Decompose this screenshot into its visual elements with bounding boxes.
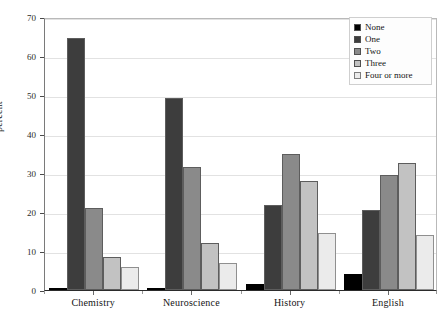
x-tick-mark-neuroscience [191,291,192,295]
legend-label: Four or more [365,71,413,80]
y-tick-label-10: 10 [16,248,36,257]
bar-english-two [380,175,398,290]
gridline-30 [45,175,436,176]
x-tick-mark-chemistry [93,291,94,295]
bar-english-none [344,274,362,290]
legend-label: Three [365,59,386,68]
bar-neuroscience-two [183,167,201,290]
legend-swatch-icon-four-or-more [354,72,361,79]
bar-neuroscience-none [147,288,165,290]
legend-item-two: Two [354,45,428,57]
x-tick-boundary-3 [339,291,340,294]
bar-english-four-or-more [416,235,434,290]
bar-chemistry-none [49,288,67,290]
y-axis-title: percent [0,101,4,132]
legend-swatch-icon-three [354,60,361,67]
y-tick-label-70: 70 [16,14,36,23]
bar-english-three [398,163,416,290]
bar-chemistry-four-or-more [121,267,139,290]
chart-legend: NoneOneTwoThreeFour or more [349,17,432,85]
bar-neuroscience-four-or-more [219,263,237,290]
legend-item-four-or-more: Four or more [354,69,428,81]
x-tick-mark-english [388,291,389,295]
bar-history-none [246,284,264,290]
bar-history-one [264,205,282,290]
legend-item-none: None [354,21,428,33]
legend-swatch-icon-two [354,48,361,55]
gridline-50 [45,97,436,98]
legend-item-three: Three [354,57,428,69]
y-tick-label-40: 40 [16,131,36,140]
x-tick-boundary-0 [44,291,45,294]
x-tick-mark-history [290,291,291,295]
y-tick-label-60: 60 [16,53,36,62]
bar-history-two [282,154,300,291]
legend-label: None [365,23,385,32]
bar-chemistry-two [85,208,103,290]
bar-neuroscience-three [201,243,219,290]
x-tick-boundary-1 [142,291,143,294]
bar-history-three [300,181,318,290]
legend-label: Two [365,47,381,56]
legend-swatch-icon-none [354,24,361,31]
bar-chemistry-three [103,257,121,290]
y-tick-label-30: 30 [16,170,36,179]
x-category-label-english: English [338,297,438,308]
bar-chart-figure: percent 010203040506070 ChemistryNeurosc… [0,0,448,325]
x-category-label-history: History [240,297,340,308]
x-category-label-neuroscience: Neuroscience [141,297,241,308]
y-tick-label-0: 0 [16,287,36,296]
gridline-40 [45,136,436,137]
x-category-label-chemistry: Chemistry [43,297,143,308]
y-tick-label-50: 50 [16,92,36,101]
x-tick-boundary-2 [241,291,242,294]
bar-history-four-or-more [318,233,336,290]
legend-swatch-icon-one [354,36,361,43]
x-tick-boundary-4 [436,291,437,294]
bar-chemistry-one [67,38,85,290]
y-tick-label-20: 20 [16,209,36,218]
legend-item-one: One [354,33,428,45]
bar-english-one [362,210,380,290]
bar-neuroscience-one [165,98,183,290]
legend-label: One [365,35,380,44]
